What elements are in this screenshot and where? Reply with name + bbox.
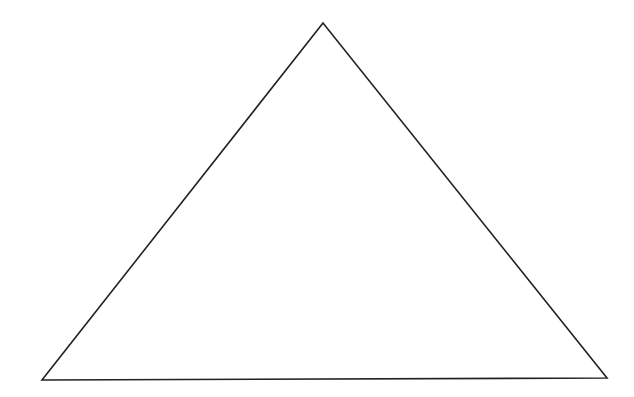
diagram-canvas — [0, 0, 634, 397]
triangle-outline — [42, 23, 607, 380]
triangle-figure — [0, 0, 634, 397]
